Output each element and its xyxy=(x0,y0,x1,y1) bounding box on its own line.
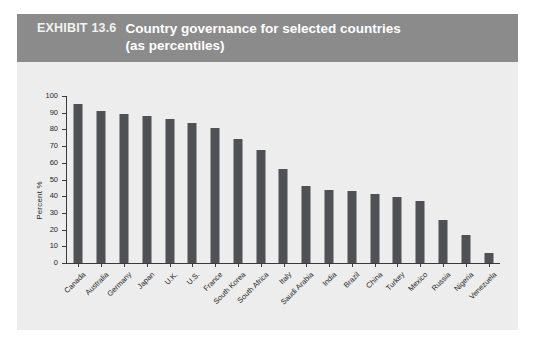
bar[interactable] xyxy=(142,116,151,263)
x-tick-mark xyxy=(124,263,125,267)
y-tick-label: 10 xyxy=(50,241,58,250)
bar-slot xyxy=(340,96,363,263)
bar-slot xyxy=(181,96,204,263)
bar-slot xyxy=(363,96,386,263)
bar[interactable] xyxy=(119,114,128,263)
bar-slot xyxy=(454,96,477,263)
exhibit-title: Country governance for selected countrie… xyxy=(126,20,401,54)
bar[interactable] xyxy=(256,150,265,263)
x-tick-mark xyxy=(466,263,467,267)
y-axis-title: Percent % xyxy=(35,161,44,241)
y-tick-label: 20 xyxy=(50,225,58,234)
x-tick-label: Germany xyxy=(105,270,133,298)
bar[interactable] xyxy=(439,220,448,263)
bar-slot xyxy=(158,96,181,263)
x-tick-mark xyxy=(329,263,330,267)
bar-slot xyxy=(318,96,341,263)
x-tick-mark xyxy=(284,263,285,267)
bar-chart: Percent % 1009080706050403020100 CanadaA… xyxy=(17,62,518,330)
bar-slot xyxy=(249,96,272,263)
y-tick-mark xyxy=(62,163,66,164)
bar-slot xyxy=(386,96,409,263)
x-tick-mark xyxy=(261,263,262,267)
x-tick-label: Italy xyxy=(277,270,293,286)
x-tick-label: U.S. xyxy=(185,270,202,287)
x-tick-mark xyxy=(489,263,490,267)
y-tick-mark xyxy=(62,129,66,130)
exhibit-panel: EXHIBIT 13.6 Country governance for sele… xyxy=(17,14,518,330)
bar-slot xyxy=(432,96,455,263)
bar-slot xyxy=(113,96,136,263)
y-tick-label: 60 xyxy=(50,158,58,167)
x-tick-mark xyxy=(170,263,171,267)
bar[interactable] xyxy=(325,190,334,263)
bar[interactable] xyxy=(416,201,425,263)
bar-slot xyxy=(409,96,432,263)
x-tick-mark xyxy=(192,263,193,267)
x-tick-mark xyxy=(238,263,239,267)
bar[interactable] xyxy=(370,194,379,263)
x-tick-mark xyxy=(443,263,444,267)
x-tick-label: India xyxy=(321,270,339,288)
y-tick-label: 90 xyxy=(50,108,58,117)
bar[interactable] xyxy=(165,119,174,263)
bar[interactable] xyxy=(211,128,220,263)
y-tick-label: 50 xyxy=(50,175,58,184)
bar[interactable] xyxy=(302,186,311,263)
x-tick-mark xyxy=(147,263,148,267)
bar-slot xyxy=(204,96,227,263)
exhibit-header-band: EXHIBIT 13.6 Country governance for sele… xyxy=(17,14,518,62)
x-tick-label: Russia xyxy=(430,270,453,293)
x-tick-label: Turkey xyxy=(384,270,406,292)
x-tick-mark xyxy=(420,263,421,267)
y-tick-label: 40 xyxy=(50,191,58,200)
x-tick-mark xyxy=(306,263,307,267)
x-tick-mark xyxy=(375,263,376,267)
y-tick-label: 30 xyxy=(50,208,58,217)
bar[interactable] xyxy=(233,139,242,263)
header-row: EXHIBIT 13.6 Country governance for sele… xyxy=(37,20,518,54)
bars-layer xyxy=(67,96,500,263)
x-tick-label: Mexico xyxy=(406,270,429,293)
bar[interactable] xyxy=(279,169,288,263)
bar[interactable] xyxy=(484,253,493,263)
bar[interactable] xyxy=(188,123,197,263)
x-tick-mark xyxy=(101,263,102,267)
y-tick-label: 70 xyxy=(50,141,58,150)
x-tick-mark xyxy=(352,263,353,267)
x-tick-label: Brazil xyxy=(342,270,362,290)
bar-slot xyxy=(227,96,250,263)
x-tick-mark xyxy=(215,263,216,267)
y-tick-mark xyxy=(62,113,66,114)
bar-slot xyxy=(135,96,158,263)
bar[interactable] xyxy=(461,235,470,263)
y-tick-mark xyxy=(62,263,66,264)
y-tick-mark xyxy=(62,213,66,214)
y-tick-mark xyxy=(62,96,66,97)
bar[interactable] xyxy=(393,197,402,263)
bar-slot xyxy=(477,96,500,263)
x-tick-label: China xyxy=(364,270,384,290)
bar-slot xyxy=(90,96,113,263)
y-tick-mark xyxy=(62,230,66,231)
y-tick-label: 100 xyxy=(45,91,58,100)
x-tick-mark xyxy=(78,263,79,267)
bar-slot xyxy=(67,96,90,263)
bar[interactable] xyxy=(347,191,356,263)
bar-slot xyxy=(272,96,295,263)
x-tick-label: U.K. xyxy=(162,270,179,287)
exhibit-number-label: EXHIBIT 13.6 xyxy=(37,20,117,35)
x-tick-mark xyxy=(397,263,398,267)
y-tick-mark xyxy=(62,246,66,247)
x-tick-label: Japan xyxy=(135,270,156,291)
bar[interactable] xyxy=(74,104,83,263)
y-tick-mark xyxy=(62,180,66,181)
y-tick-mark xyxy=(62,146,66,147)
bar-slot xyxy=(295,96,318,263)
bar[interactable] xyxy=(97,111,106,263)
y-tick-label: 0 xyxy=(54,258,58,267)
y-tick-label: 80 xyxy=(50,124,58,133)
y-tick-mark xyxy=(62,196,66,197)
